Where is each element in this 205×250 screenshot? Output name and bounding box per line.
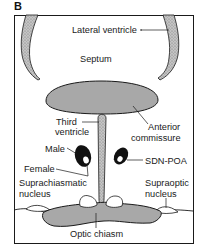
optic-chiasm bbox=[42, 202, 161, 226]
anterior-commissure bbox=[46, 81, 158, 114]
label-sdn-poa: SDN-POA bbox=[145, 156, 187, 166]
label-anterior-commissure-2: commissure bbox=[131, 133, 181, 143]
third-ventricle bbox=[98, 114, 106, 204]
hypothalamus-diagram: B Lateral ventricle Septum Third ventric… bbox=[0, 0, 205, 250]
label-supraoptic-1: Supraoptic bbox=[145, 178, 189, 188]
label-septum: Septum bbox=[80, 54, 112, 64]
label-suprachiasmatic-1: Suprachiasmatic bbox=[19, 178, 87, 188]
label-optic-chiasm: Optic chiasm bbox=[70, 229, 123, 239]
label-third-ventricle-2: ventricle bbox=[55, 127, 89, 137]
right-lateral-ventricle bbox=[158, 15, 179, 80]
label-third-ventricle-1: Third bbox=[56, 117, 77, 127]
label-anterior-commissure-1: Anterior bbox=[148, 122, 180, 132]
label-suprachiasmatic-2: nucleus bbox=[19, 189, 51, 199]
left-suprachiasmatic-nucleus bbox=[80, 195, 97, 207]
label-lateral-ventricle: Lateral ventricle bbox=[72, 25, 137, 35]
male-sdn-poa bbox=[72, 143, 93, 168]
left-lateral-ventricle bbox=[21, 15, 40, 80]
label-female: Female bbox=[24, 164, 55, 174]
right-suprachiasmatic-nucleus bbox=[106, 196, 123, 207]
female-sdn-poa bbox=[111, 145, 131, 167]
label-supraoptic-2: nucleus bbox=[145, 189, 177, 199]
panel-letter: B bbox=[14, 0, 22, 12]
label-male: Male bbox=[45, 144, 65, 154]
